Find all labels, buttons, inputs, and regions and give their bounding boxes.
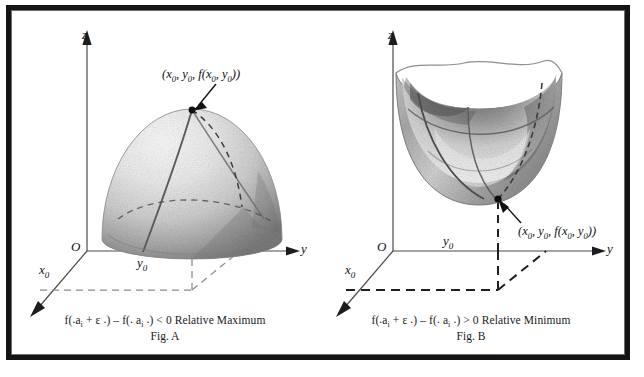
x0-label-b: x0	[345, 262, 355, 280]
bowl-surface-b	[396, 60, 562, 205]
point-label-b: (x0, y0, f(x0, y0))	[518, 224, 596, 241]
x0-label-a: x0	[39, 262, 49, 280]
caption-fig-label-b: Fig. B	[318, 330, 624, 344]
point-callout-arrow-b	[498, 199, 521, 223]
z-axis-label-b: z	[388, 27, 393, 43]
z-axis-label-a: z	[82, 27, 87, 43]
y0-label-a: y0	[137, 255, 147, 273]
y-axis-label-b: y	[607, 241, 613, 257]
y-axis-b	[393, 247, 606, 256]
z-axis-a	[82, 30, 91, 251]
panel-fig-a: (x0, y0, f(x0, y0)) z y O y0 x0 f(.ai + …	[12, 11, 318, 354]
y-axis-label-a: y	[301, 241, 307, 257]
point-label-a: (x0, y0, f(x0, y0))	[162, 67, 240, 84]
z-axis-b	[388, 30, 397, 251]
panel-container: (x0, y0, f(x0, y0)) z y O y0 x0 f(.ai + …	[12, 11, 624, 354]
fig-a-diagram	[12, 11, 318, 354]
x-axis-a	[30, 251, 87, 317]
caption-fig-label-a: Fig. A	[12, 330, 318, 344]
dome-surface-a	[102, 109, 282, 259]
origin-label-a: O	[71, 239, 80, 255]
panel-fig-b: (x0, y0, f(x0, y0)) z y O y0 x0 f(.ai + …	[318, 11, 624, 354]
caption-expression-b: f(.ai + ε .) – f(. ai .) > 0 Relative Mi…	[318, 314, 624, 330]
caption-fig-b: f(.ai + ε .) – f(. ai .) > 0 Relative Mi…	[318, 314, 624, 344]
point-callout-arrow-a	[192, 84, 216, 111]
caption-expression-a: f(.ai + ε .) – f(. ai .) < 0 Relative Ma…	[12, 314, 318, 330]
caption-fig-a: f(.ai + ε .) – f(. ai .) < 0 Relative Ma…	[12, 314, 318, 344]
y0-label-b: y0	[443, 233, 453, 251]
figure-root: (x0, y0, f(x0, y0)) z y O y0 x0 f(.ai + …	[0, 0, 644, 377]
x-axis-b	[336, 251, 393, 317]
fig-b-diagram	[318, 11, 624, 354]
origin-label-b: O	[377, 239, 386, 255]
